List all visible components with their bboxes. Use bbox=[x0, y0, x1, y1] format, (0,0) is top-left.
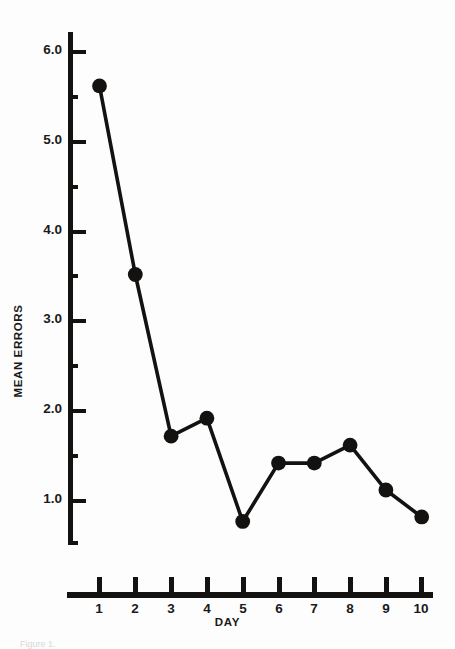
y-tick-major bbox=[68, 319, 86, 323]
y-tick-minor bbox=[68, 274, 78, 278]
x-axis-title: DAY bbox=[0, 616, 455, 628]
x-tick-label: 9 bbox=[371, 602, 401, 616]
y-tick-label: 5.0 bbox=[17, 133, 62, 147]
x-tick bbox=[169, 577, 174, 593]
x-axis-spine bbox=[67, 592, 433, 598]
x-tick bbox=[348, 577, 353, 593]
x-tick-label: 10 bbox=[406, 602, 436, 616]
y-tick-minor bbox=[68, 454, 78, 458]
x-tick-label: 3 bbox=[156, 602, 186, 616]
y-tick-minor bbox=[68, 541, 78, 545]
x-tick bbox=[419, 577, 424, 593]
y-tick-major bbox=[68, 409, 86, 413]
y-tick-label: 1.0 bbox=[17, 492, 62, 506]
y-tick-label: 6.0 bbox=[17, 43, 62, 57]
y-tick-label: 4.0 bbox=[17, 223, 62, 237]
figure-caption: Figure 1. bbox=[20, 639, 56, 649]
y-tick-major bbox=[68, 140, 86, 144]
y-tick-minor bbox=[68, 185, 78, 189]
x-tick-label: 4 bbox=[192, 602, 222, 616]
x-tick-label: 5 bbox=[228, 602, 258, 616]
x-tick bbox=[384, 577, 389, 593]
y-axis-title: MEAN ERRORS bbox=[12, 291, 24, 411]
x-tick bbox=[133, 577, 138, 593]
y-tick-major bbox=[68, 499, 86, 503]
x-tick-label: 2 bbox=[120, 602, 150, 616]
x-tick bbox=[205, 577, 210, 593]
x-tick bbox=[277, 577, 282, 593]
x-tick-label: 7 bbox=[299, 602, 329, 616]
x-tick bbox=[312, 577, 317, 593]
x-tick-label: 8 bbox=[335, 602, 365, 616]
y-tick-minor bbox=[68, 95, 78, 99]
y-tick-major bbox=[68, 50, 86, 54]
y-axis-spine bbox=[68, 32, 73, 545]
x-tick bbox=[97, 577, 102, 593]
y-tick-minor bbox=[68, 364, 78, 368]
x-tick bbox=[241, 577, 246, 593]
x-tick-label: 6 bbox=[264, 602, 294, 616]
y-tick-major bbox=[68, 230, 86, 234]
x-tick-label: 1 bbox=[84, 602, 114, 616]
